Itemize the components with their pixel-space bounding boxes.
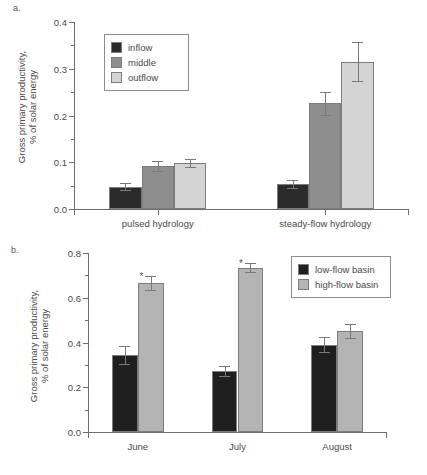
panel-b-y-axis-title-line2: % of solar energy <box>39 266 50 426</box>
error-bar-cap-upper <box>185 159 196 160</box>
x-tick-label: June <box>128 441 149 452</box>
x-tick-end <box>88 433 89 438</box>
y-tick-label: 0.4 <box>54 17 67 28</box>
error-bar-cap-lower <box>219 376 230 377</box>
y-tick-major <box>69 162 74 163</box>
legend-swatch-middle <box>111 57 122 68</box>
error-bar-cap-upper <box>145 276 156 277</box>
y-tick-minor <box>85 275 88 276</box>
error-bar <box>293 180 294 188</box>
error-bar-cap-lower <box>320 115 331 116</box>
error-bar-cap-lower <box>319 352 330 353</box>
y-tick-label: 0.6 <box>68 292 81 303</box>
error-bar <box>125 346 126 364</box>
error-bar-cap-upper <box>152 161 163 162</box>
y-tick-minor <box>85 365 88 366</box>
error-bar-cap-upper <box>219 366 230 367</box>
legend-swatch-low-flow-basin <box>298 264 309 275</box>
panel-b-y-axis-line <box>88 253 89 433</box>
bar <box>138 283 164 432</box>
error-bar-cap-upper <box>119 346 130 347</box>
x-tick-label: July <box>229 441 246 452</box>
y-tick-label: 0.0 <box>54 204 67 215</box>
bar <box>309 103 341 209</box>
error-bar-cap-upper <box>287 180 298 181</box>
bar <box>142 166 174 209</box>
legend-swatch-inflow <box>111 42 122 53</box>
y-tick-major <box>69 22 74 23</box>
legend-item-low-flow-basin: low-flow basin <box>298 262 382 277</box>
legend-label-outflow: outflow <box>128 72 158 83</box>
x-tick <box>158 210 159 215</box>
panel-b-y-axis-title-line1: Gross primary productivity, <box>28 266 39 426</box>
y-tick-minor <box>71 186 74 187</box>
legend-item-outflow: outflow <box>111 70 180 85</box>
error-bar <box>158 161 159 170</box>
legend-item-middle: middle <box>111 55 180 70</box>
error-bar <box>190 159 191 167</box>
error-bar <box>358 42 359 81</box>
panel-a-y-axis-line <box>74 22 75 210</box>
bar <box>112 355 138 432</box>
y-tick-major <box>83 387 88 388</box>
panel-a: a. Gross primary productivity, % of sola… <box>0 0 427 236</box>
y-tick-minor <box>71 92 74 93</box>
error-bar <box>250 263 251 273</box>
bar <box>341 62 373 209</box>
significance-asterisk: * <box>239 259 243 269</box>
legend-label-inflow: inflow <box>128 42 152 53</box>
legend-label-low-flow-basin: low-flow basin <box>315 264 375 275</box>
error-bar-cap-lower <box>345 338 356 339</box>
error-bar <box>151 276 152 290</box>
y-tick-major <box>83 298 88 299</box>
bar <box>174 163 206 209</box>
error-bar-cap-lower <box>119 364 130 365</box>
error-bar <box>325 92 326 114</box>
error-bar-cap-upper <box>245 263 256 264</box>
panel-b-y-axis-title: Gross primary productivity, % of solar e… <box>28 266 50 426</box>
panel-a-label: a. <box>13 3 21 13</box>
error-bar <box>350 324 351 338</box>
error-bar-cap-lower <box>287 188 298 189</box>
legend-swatch-high-flow-basin <box>298 279 309 290</box>
error-bar <box>324 337 325 352</box>
panel-a-legend: inflow middle outflow <box>104 34 189 91</box>
panel-a-y-axis-title-line2: % of solar energy <box>27 32 38 182</box>
error-bar-cap-upper <box>345 324 356 325</box>
y-tick-label: 0.3 <box>54 63 67 74</box>
panel-a-x-axis-line <box>74 209 409 210</box>
legend-item-high-flow-basin: high-flow basin <box>298 277 382 292</box>
error-bar-cap-lower <box>185 167 196 168</box>
y-tick-label: 0.1 <box>54 157 67 168</box>
error-bar-cap-upper <box>319 337 330 338</box>
bar <box>238 268 264 432</box>
y-tick-label: 0.4 <box>68 337 81 348</box>
legend-swatch-outflow <box>111 72 122 83</box>
y-tick-minor <box>85 410 88 411</box>
legend-label-middle: middle <box>128 57 156 68</box>
bar <box>212 371 238 432</box>
bar <box>337 331 363 432</box>
panel-a-y-axis-title: Gross primary productivity, % of solar e… <box>16 32 38 182</box>
y-tick-label: 0.2 <box>68 382 81 393</box>
y-tick-label: 0.8 <box>68 248 81 259</box>
error-bar-cap-upper <box>120 183 131 184</box>
error-bar-cap-upper <box>320 92 331 93</box>
panel-b-legend: low-flow basin high-flow basin <box>291 256 391 298</box>
legend-label-high-flow-basin: high-flow basin <box>315 279 378 290</box>
y-tick-minor <box>71 45 74 46</box>
error-bar-cap-lower <box>120 190 131 191</box>
significance-asterisk: * <box>139 272 143 282</box>
y-tick-label: 0.0 <box>68 427 81 438</box>
error-bar-cap-lower <box>145 290 156 291</box>
x-tick-end <box>408 210 409 215</box>
y-tick-minor <box>71 139 74 140</box>
x-tick-end <box>74 210 75 215</box>
bar <box>311 345 337 432</box>
y-tick-label: 0.2 <box>54 110 67 121</box>
panel-b-label: b. <box>11 245 19 255</box>
panel-b-x-axis-line <box>88 432 387 433</box>
y-tick-minor <box>85 320 88 321</box>
x-tick-label: August <box>322 441 352 452</box>
x-tick <box>325 210 326 215</box>
